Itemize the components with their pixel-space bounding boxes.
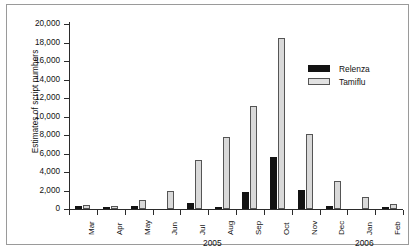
chart-legend: RelenzaTamiflu [308,62,370,88]
month-label-apr: Apr [115,223,124,235]
legend-item-relenza[interactable]: Relenza [308,62,370,75]
bar-tamiflu-jul [195,160,202,209]
plot-area [69,24,399,209]
month-label-mar: Mar [87,221,96,235]
figure-frame: Estimates of script numbers 20,00018,000… [6,4,409,245]
month-label-jul: Jul [198,225,207,235]
month-label-dec: Dec [337,221,346,235]
bar-tamiflu-may [139,200,146,209]
month-label-aug: Aug [226,221,235,235]
bar-relenza-jul [187,203,194,209]
x-axis-tick [97,210,98,215]
y-axis-tick-label: 20,000 [35,19,60,28]
y-axis-tick-label: 0 [55,204,60,213]
y-axis-tick-label: 4,000 [40,167,61,176]
legend-item-tamiflu[interactable]: Tamiflu [308,75,370,88]
legend-label-relenza: Relenza [339,64,370,74]
x-axis-tick [236,210,237,215]
x-axis-tick [153,210,154,215]
y-axis-tick-label: 2,000 [40,186,61,195]
month-label-feb: Feb [393,221,402,235]
bar-relenza-dec [326,206,333,209]
y-axis-tick-label: 6,000 [40,149,61,158]
bar-tamiflu-mar [83,205,90,209]
bar-relenza-nov [298,190,305,209]
bar-tamiflu-dec [334,181,341,209]
legend-swatch-relenza [308,65,330,72]
month-label-nov: Nov [310,221,319,235]
year-label-2005: 2005 [203,238,222,248]
year-label-2006: 2006 [355,238,374,248]
month-label-jan: Jan [365,222,374,235]
bar-tamiflu-nov [306,134,313,209]
y-axis-tick-label: 8,000 [40,130,61,139]
bar-tamiflu-jun [167,191,174,210]
bar-relenza-oct [270,157,277,209]
bar-relenza-mar [75,206,82,209]
y-axis-tick-label: 10,000 [35,112,60,121]
bar-relenza-feb [382,207,389,209]
y-axis-tick-label: 14,000 [35,75,60,84]
bar-relenza-sep [242,192,249,209]
bar-tamiflu-jan [362,197,369,209]
bar-relenza-may [131,206,138,209]
bar-tamiflu-feb [390,204,397,209]
x-axis-tick [125,210,126,215]
x-axis-tick [403,210,404,215]
x-axis-tick [320,210,321,215]
month-label-sep: Sep [254,221,263,235]
x-axis-tick [208,210,209,215]
bar-tamiflu-aug [223,137,230,209]
y-axis-tick-label: 18,000 [35,38,60,47]
x-axis-tick [347,210,348,215]
month-label-oct: Oct [282,223,291,235]
x-axis-tick [264,210,265,215]
x-axis-tick [69,210,70,215]
bar-tamiflu-apr [111,206,118,209]
month-label-may: May [143,220,152,235]
bar-relenza-aug [215,207,222,209]
x-axis-tick [292,210,293,215]
y-axis-tick-label: 12,000 [35,93,60,102]
month-label-jun: Jun [170,222,179,235]
legend-swatch-tamiflu [308,78,330,85]
chart-figure: Estimates of script numbers 20,00018,000… [0,0,415,249]
bar-tamiflu-sep [250,106,257,209]
bar-tamiflu-oct [278,38,285,209]
y-axis-tick-label: 16,000 [35,56,60,65]
x-axis-tick [180,210,181,215]
x-axis-tick [375,210,376,215]
legend-label-tamiflu: Tamiflu [339,77,366,87]
bar-relenza-apr [103,207,110,209]
